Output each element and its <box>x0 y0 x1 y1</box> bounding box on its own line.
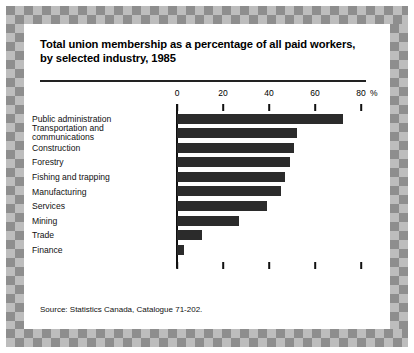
border-square <box>204 329 213 338</box>
border-square <box>213 338 222 347</box>
bar-row <box>24 229 390 244</box>
bar-row <box>24 214 390 229</box>
border-square <box>399 168 408 177</box>
border-square <box>399 312 408 321</box>
border-row <box>390 51 408 60</box>
border-square <box>87 338 96 347</box>
border-square <box>24 6 33 15</box>
border-square <box>6 195 15 204</box>
border-square <box>390 213 399 222</box>
border-square <box>69 15 78 24</box>
border-square <box>222 15 231 24</box>
bar-row <box>24 243 390 258</box>
border-square <box>285 6 294 15</box>
x-axis-unit: % <box>370 88 378 98</box>
border-square <box>390 105 399 114</box>
border-square <box>33 15 42 24</box>
category-label: Mining <box>32 216 57 226</box>
border-row <box>6 312 24 321</box>
bar-chart: 020406080% Public administrationTranspor… <box>24 88 390 288</box>
border-square <box>15 159 24 168</box>
border-square <box>258 6 267 15</box>
border-square <box>6 78 15 87</box>
x-tick-top-60 <box>314 104 316 111</box>
category-label: Manufacturing <box>32 187 86 197</box>
border-square <box>33 329 42 338</box>
border-square <box>78 6 87 15</box>
border-square <box>249 6 258 15</box>
border-square <box>399 285 408 294</box>
border-row <box>390 123 408 132</box>
border-square <box>330 6 339 15</box>
border-square <box>78 329 87 338</box>
border-row <box>390 276 408 285</box>
border-square <box>60 6 69 15</box>
border-row <box>390 222 408 231</box>
bar-services <box>177 201 267 211</box>
border-square <box>15 42 24 51</box>
border-square <box>366 329 375 338</box>
border-square <box>132 15 141 24</box>
border-square <box>339 6 348 15</box>
border-square <box>357 329 366 338</box>
border-square <box>6 240 15 249</box>
border-square <box>348 329 357 338</box>
border-square <box>294 329 303 338</box>
border-square <box>96 6 105 15</box>
border-square <box>399 258 408 267</box>
border-square <box>6 338 15 347</box>
border-square <box>150 329 159 338</box>
border-row <box>6 240 24 249</box>
border-row <box>6 87 24 96</box>
border-square <box>390 150 399 159</box>
border-square <box>42 15 51 24</box>
border-square <box>15 132 24 141</box>
border-square <box>159 338 168 347</box>
border-square <box>42 329 51 338</box>
border-square <box>51 6 60 15</box>
border-square <box>24 329 33 338</box>
border-square <box>390 168 399 177</box>
border-square <box>240 15 249 24</box>
border-row <box>390 204 408 213</box>
border-square <box>105 329 114 338</box>
border-square <box>390 33 399 42</box>
border-square <box>294 15 303 24</box>
border-row <box>6 141 24 150</box>
border-square <box>231 329 240 338</box>
border-square <box>249 329 258 338</box>
border-square <box>150 15 159 24</box>
border-square <box>339 15 348 24</box>
border-square <box>6 204 15 213</box>
border-square <box>6 33 15 42</box>
border-square <box>6 267 15 276</box>
border-square <box>312 329 321 338</box>
border-square <box>132 6 141 15</box>
border-square <box>399 96 408 105</box>
border-square <box>78 15 87 24</box>
border-square <box>96 15 105 24</box>
border-row <box>390 258 408 267</box>
border-square <box>390 231 399 240</box>
border-square <box>399 231 408 240</box>
border-square <box>69 329 78 338</box>
border-square <box>390 69 399 78</box>
border-square <box>390 285 399 294</box>
border-square <box>375 15 384 24</box>
border-square <box>357 6 366 15</box>
x-tick-top-40 <box>268 104 270 111</box>
border-square <box>240 338 249 347</box>
x-tick-top-80 <box>360 104 362 111</box>
border-square <box>33 6 42 15</box>
border-square <box>141 15 150 24</box>
border-square <box>390 267 399 276</box>
border-row <box>6 186 24 195</box>
border-row <box>390 285 408 294</box>
x-tick-bottom-20 <box>222 262 224 269</box>
border-square <box>390 123 399 132</box>
category-label: Trade <box>32 230 54 240</box>
border-row <box>6 285 24 294</box>
border-square <box>15 258 24 267</box>
border-square <box>390 114 399 123</box>
figure-container: Total union membership as a percentage o… <box>0 0 414 353</box>
